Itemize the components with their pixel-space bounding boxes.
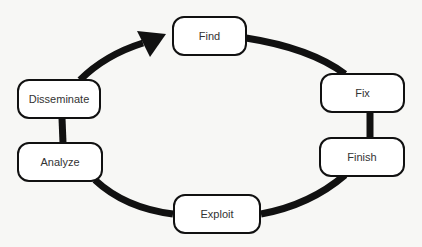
edge-disseminate-find [80,43,143,80]
node-finish: Finish [319,137,405,177]
node-disseminate-label: Disseminate [29,93,90,105]
edge-finish-exploit [261,175,345,214]
node-exploit: Exploit [173,194,261,234]
node-analyze-label: Analyze [40,156,79,168]
node-fix: Fix [320,73,405,113]
node-finish-label: Finish [347,151,376,163]
edge-analyze-disseminate [62,118,63,143]
node-find-label: Find [199,30,220,42]
node-find: Find [172,16,247,56]
edge-exploit-analyze [95,180,173,214]
node-disseminate: Disseminate [17,79,101,119]
node-analyze: Analyze [17,142,103,182]
node-fix-label: Fix [355,87,370,99]
edge-find-fix [246,38,345,74]
node-exploit-label: Exploit [200,208,233,220]
